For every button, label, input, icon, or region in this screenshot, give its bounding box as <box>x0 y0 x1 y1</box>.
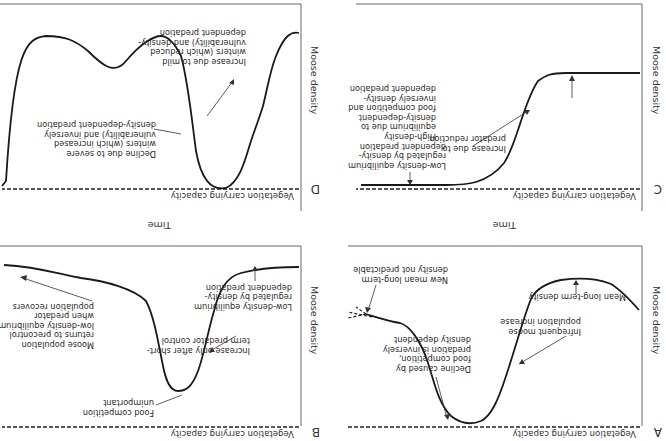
panel-c-annotation-high-density: High-density equilibrium due to density-… <box>348 83 436 141</box>
panel-d-letter: D <box>311 182 320 196</box>
panel-c-annotation-increase: Increase due to predator reduction <box>429 134 506 153</box>
panel-b-carrying-capacity-label: Vegetation carrying capacity <box>171 429 294 439</box>
panel-d-carrying-capacity-label: Vegetation carrying capacity <box>171 191 294 201</box>
figure-canvas: A B C D Moose density Moose density Moos… <box>0 0 666 441</box>
panel-b-annotation-low-density: Low-density equilibrium regulated by den… <box>194 282 292 311</box>
panel-b-annotation-increase-after-control: Increase only after short- term predator… <box>147 336 250 355</box>
panel-a-x-axis-label: Time <box>493 220 516 231</box>
panel-b-annotation-returns: Moose population returns to precontrol l… <box>0 301 94 349</box>
panel-b-letter: B <box>312 425 320 439</box>
panel-b-annotation-food-competition: Food competition unimportant <box>83 398 154 417</box>
panel-b-y-axis-label: Moose density <box>309 286 320 354</box>
panel-c-letter: C <box>654 182 662 196</box>
panel-d-annotation-increase-mild: Increase due to mild winters (which redu… <box>138 28 246 66</box>
panel-a-annotation-decline: Decline caused by food competition, pred… <box>383 335 471 373</box>
panel-a-letter: A <box>654 425 662 439</box>
panel-b-x-axis-label: Time <box>148 220 171 231</box>
panel-a-annotation-mean-long-term: Mean long-term density <box>528 291 626 301</box>
panel-d-annotation-decline-severe: Decline due to severe winters (which inc… <box>37 120 156 158</box>
panel-a-annotation-infrequent-increase: Infrequent moose population increase <box>500 317 581 336</box>
panel-d-y-axis-label: Moose density <box>309 46 320 114</box>
panel-a-annotation-new-mean: New mean long-term density not predictab… <box>353 265 448 284</box>
panel-a-carrying-capacity-label: Vegetation carrying capacity <box>513 429 636 439</box>
panel-a-y-axis-label: Moose density <box>651 286 662 354</box>
panel-c-y-axis-label: Moose density <box>651 46 662 114</box>
panel-c-carrying-capacity-label: Vegetation carrying capacity <box>513 191 636 201</box>
diagram-graphics <box>0 0 666 441</box>
